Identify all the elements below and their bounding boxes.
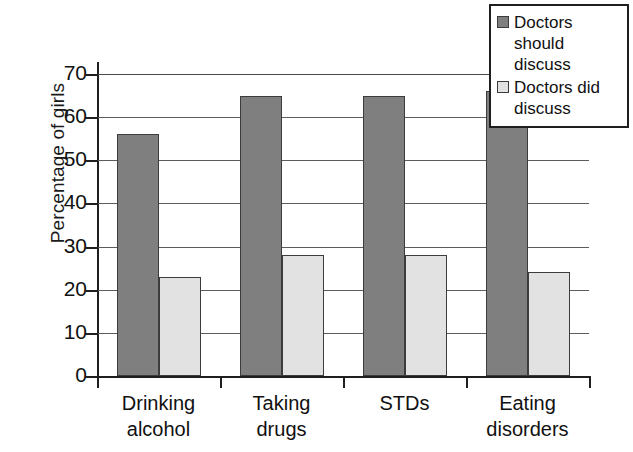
bar [528, 272, 570, 376]
x-tick-label-line: disorders [466, 416, 589, 442]
bar [240, 96, 282, 376]
x-tick-label: STDs [343, 390, 466, 416]
y-tick-mark-10 [85, 333, 98, 335]
legend-label: Doctors shoulddiscuss [514, 12, 621, 75]
x-tick-label-line: alcohol [97, 416, 220, 442]
chart-figure: Percentage of girls 010203040506070 Doct… [0, 0, 633, 452]
y-tick-label-20: 20 [43, 277, 87, 301]
x-tick-label-line: Eating [466, 390, 589, 416]
x-axis-separator [97, 376, 99, 388]
bar [117, 134, 159, 376]
x-tick-label: Drinkingalcohol [97, 390, 220, 442]
y-tick-label-50: 50 [43, 147, 87, 171]
bar [159, 277, 201, 376]
y-tick-mark-40 [85, 203, 98, 205]
x-axis-separator [466, 376, 468, 388]
y-tick-label-10: 10 [43, 320, 87, 344]
y-tick-mark-60 [85, 117, 98, 119]
y-tick-mark-70 [85, 74, 98, 76]
legend-swatch-icon [497, 81, 509, 93]
x-tick-label-line: Drinking [97, 390, 220, 416]
bar [486, 91, 528, 376]
y-tick-mark-20 [85, 290, 98, 292]
x-tick-label-line: STDs [343, 390, 466, 416]
x-axis-separator [220, 376, 222, 388]
x-axis-line [85, 376, 589, 378]
bar [282, 255, 324, 376]
legend: Doctors shoulddiscussDoctors diddiscuss [489, 4, 629, 128]
legend-label: Doctors diddiscuss [514, 77, 600, 119]
y-axis-ticks: 010203040506070 [0, 0, 87, 452]
y-tick-mark-50 [85, 160, 98, 162]
x-axis-separator [343, 376, 345, 388]
y-tick-label-0: 0 [43, 363, 87, 387]
y-tick-label-30: 30 [43, 234, 87, 258]
y-tick-label-70: 70 [43, 61, 87, 85]
x-tick-label-line: drugs [220, 416, 343, 442]
bar [363, 96, 405, 376]
y-tick-label-40: 40 [43, 190, 87, 214]
x-axis-separator [589, 376, 591, 388]
legend-item[interactable]: Doctors shoulddiscuss [497, 12, 621, 75]
x-tick-label: Eatingdisorders [466, 390, 589, 442]
x-tick-label: Takingdrugs [220, 390, 343, 442]
y-tick-label-60: 60 [43, 104, 87, 128]
x-tick-label-line: Taking [220, 390, 343, 416]
bar [405, 255, 447, 376]
legend-swatch-icon [497, 16, 509, 28]
legend-item[interactable]: Doctors diddiscuss [497, 77, 621, 119]
y-tick-mark-30 [85, 247, 98, 249]
